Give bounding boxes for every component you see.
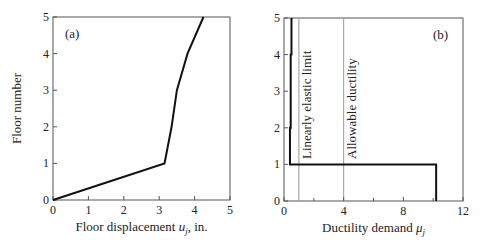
data-series-line <box>53 17 203 200</box>
x-tick-label: 1 <box>85 203 91 217</box>
x-tick-label: 8 <box>400 204 406 218</box>
y-tick-label: 0 <box>43 193 49 207</box>
y-tick-label: 4 <box>274 48 280 62</box>
y-tick-label: 2 <box>274 121 280 135</box>
y-tick-label: 4 <box>43 47 49 61</box>
y-tick-label: 5 <box>43 10 49 24</box>
y-tick-label: 3 <box>274 84 280 98</box>
x-tick-label: 4 <box>341 204 347 218</box>
plot-frame <box>53 17 230 200</box>
x-tick-label: 12 <box>457 204 469 218</box>
panel-label: (b) <box>433 27 448 42</box>
y-tick-label: 1 <box>43 156 49 170</box>
y-tick-label: 2 <box>43 120 49 134</box>
x-tick-label: 4 <box>192 203 198 217</box>
reference-line-label: Allowable ductility <box>344 58 359 159</box>
x-tick-label: 0 <box>281 204 287 218</box>
chart-panel-a: 012345012345(a)Floor displacement uj, in… <box>9 10 233 236</box>
y-tick-label: 3 <box>43 83 49 97</box>
x-tick-label: 2 <box>121 203 127 217</box>
y-tick-label: 1 <box>274 157 280 171</box>
x-tick-label: 5 <box>227 203 233 217</box>
panel-label: (a) <box>65 26 79 41</box>
x-tick-label: 3 <box>156 203 162 217</box>
chart-panel-b: Linearly elastic limitAllowable ductilit… <box>274 11 469 237</box>
x-tick-label: 0 <box>50 203 56 217</box>
y-tick-label: 5 <box>274 11 280 25</box>
y-axis-label: Floor number <box>9 72 24 144</box>
figure: 012345012345(a)Floor displacement uj, in… <box>0 0 483 246</box>
reference-line-label: Linearly elastic limit <box>299 50 314 159</box>
y-tick-label: 0 <box>274 194 280 208</box>
figure-svg: 012345012345(a)Floor displacement uj, in… <box>0 0 483 246</box>
x-axis-label: Ductility demand μj <box>322 220 425 237</box>
x-axis-label: Floor displacement uj, in. <box>75 219 207 236</box>
